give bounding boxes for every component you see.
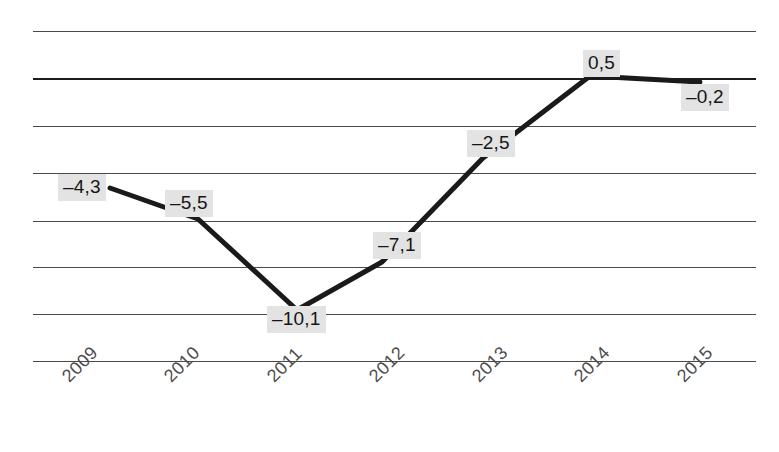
plot-area: –4,3 –5,5 –10,1 –7,1 –2,5 0,5 –0,2 2009 … — [0, 0, 779, 452]
chart-page: –4,3 –5,5 –10,1 –7,1 –2,5 0,5 –0,2 2009 … — [0, 0, 779, 452]
value-label-2009: –4,3 — [58, 174, 106, 201]
gridline-1 — [33, 31, 756, 32]
value-label-2014: 0,5 — [583, 50, 620, 77]
x-tick-2013: 2013 — [468, 342, 513, 387]
x-tick-2012: 2012 — [365, 342, 410, 387]
x-tick-2009: 2009 — [58, 342, 103, 387]
x-tick-2010: 2010 — [160, 342, 205, 387]
value-label-2015: –0,2 — [681, 84, 729, 111]
value-label-2013: –2,5 — [467, 130, 515, 157]
x-tick-2011: 2011 — [263, 343, 307, 387]
gridline-6 — [33, 267, 756, 268]
x-tick-2015: 2015 — [673, 342, 718, 387]
gridline-4 — [33, 173, 756, 174]
value-label-2012: –7,1 — [373, 232, 421, 259]
value-label-2011: –10,1 — [267, 306, 326, 333]
gridline-5 — [33, 221, 756, 222]
x-tick-2014: 2014 — [570, 342, 615, 387]
gridline-7 — [33, 314, 756, 315]
gridline-3 — [33, 126, 756, 127]
series-line — [0, 0, 779, 452]
gridline-zero-line — [33, 78, 756, 80]
value-label-2010: –5,5 — [165, 190, 213, 217]
